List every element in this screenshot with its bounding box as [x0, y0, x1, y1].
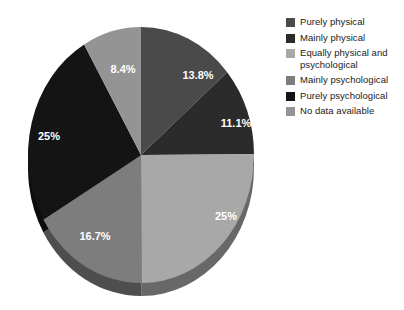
pie-slice-percentage-label: 11.1%: [221, 117, 252, 129]
legend-item-label: Mainly psychological: [300, 74, 388, 86]
legend-item[interactable]: Purely physical: [286, 16, 404, 28]
legend-item[interactable]: Mainly physical: [286, 32, 404, 44]
legend-item-label: Purely physical: [300, 16, 365, 28]
pie-chart-figure: 13.8%11.1%25%16.7%25%8.4% Purely physica…: [0, 0, 404, 310]
pie-chart-svg: 13.8%11.1%25%16.7%25%8.4%: [0, 0, 276, 310]
pie-slice-percentage-label: 13.8%: [182, 69, 213, 81]
pie-slice-percentage-label: 25%: [215, 210, 237, 222]
legend-color-swatch: [286, 92, 295, 101]
legend-item-label: Purely psychological: [300, 90, 388, 102]
legend-item[interactable]: Mainly psychological: [286, 74, 404, 86]
legend-item[interactable]: Purely psychological: [286, 90, 404, 102]
pie-slice-percentage-label: 25%: [38, 130, 60, 142]
legend-item-label: No data available: [300, 105, 374, 117]
legend-color-swatch: [286, 34, 295, 43]
legend-item-label: Mainly physical: [300, 32, 365, 44]
pie-slice-percentage-label: 8.4%: [110, 63, 135, 75]
pie-chart-plot-area: 13.8%11.1%25%16.7%25%8.4%: [0, 0, 276, 310]
legend-color-swatch: [286, 49, 295, 58]
legend-item[interactable]: Equally physical and psychological: [286, 47, 404, 70]
legend-color-swatch: [286, 76, 295, 85]
pie-slice-percentage-label: 16.7%: [79, 230, 110, 242]
chart-legend: Purely physicalMainly physicalEqually ph…: [286, 16, 404, 121]
legend-color-swatch: [286, 107, 295, 116]
legend-color-swatch: [286, 18, 295, 27]
pie-slice[interactable]: [141, 154, 254, 283]
legend-item-label: Equally physical and psychological: [300, 47, 404, 70]
pie-slices-group: [28, 27, 254, 283]
legend-item[interactable]: No data available: [286, 105, 404, 117]
